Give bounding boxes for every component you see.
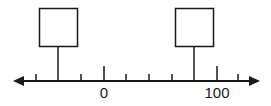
number-line-diagram: 0 100 (0, 0, 271, 106)
tick-marks (36, 66, 238, 81)
answer-box-left[interactable] (40, 9, 78, 47)
tick-label-hundred: 100 (204, 84, 229, 101)
left-arrow-icon (13, 76, 24, 86)
tick-label-zero: 0 (100, 84, 108, 101)
right-arrow-icon (249, 76, 260, 86)
answer-box-right[interactable] (176, 9, 214, 47)
